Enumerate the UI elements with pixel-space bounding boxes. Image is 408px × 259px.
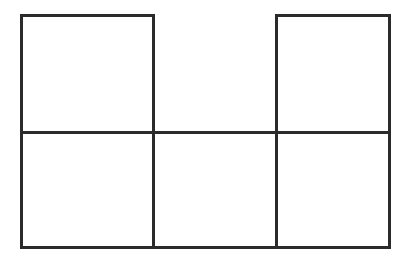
square-top-right: [275, 14, 391, 134]
square-bottom-middle: [152, 131, 278, 249]
square-bottom-left: [20, 131, 155, 249]
square-bottom-right: [275, 131, 391, 249]
square-top-left: [20, 14, 155, 134]
